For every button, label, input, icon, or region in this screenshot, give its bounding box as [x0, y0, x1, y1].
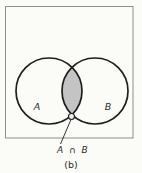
figure-caption: (b)	[64, 159, 77, 170]
intersection-region	[62, 67, 82, 114]
set-b-label: B	[105, 101, 112, 112]
intersection-point-marker	[69, 114, 75, 120]
venn-diagram-figure: A B A ∩ B (b)	[0, 0, 142, 173]
set-a-label: A	[33, 101, 41, 112]
leader-line	[61, 120, 72, 145]
venn-diagram-canvas: A B A ∩ B (b)	[0, 0, 142, 173]
intersection-label: A ∩ B	[56, 145, 89, 155]
